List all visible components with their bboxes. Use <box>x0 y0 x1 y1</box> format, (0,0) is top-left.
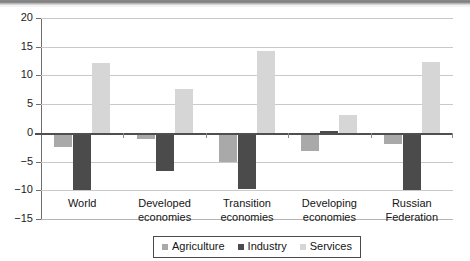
category-label-line: economies <box>123 210 205 224</box>
legend-label: Agriculture <box>172 241 225 252</box>
category-label: Developingeconomies <box>288 196 370 224</box>
y-axis-tick-label: 20 <box>0 12 33 23</box>
y-axis-tick-label: 0 <box>0 127 33 138</box>
category-label: World <box>41 196 123 210</box>
y-axis-tick <box>36 47 41 48</box>
y-axis-tick <box>36 75 41 76</box>
y-axis-tick <box>36 104 41 105</box>
category-label-line: Developing <box>288 196 370 210</box>
bar-agriculture <box>219 133 237 162</box>
bar-industry <box>238 133 256 189</box>
x-axis-minor-tick <box>288 133 289 138</box>
bar-group <box>137 18 193 219</box>
category-label-line: Transition <box>206 196 288 210</box>
y-axis-tick-label: −10 <box>0 184 33 195</box>
legend-label: Industry <box>248 241 287 252</box>
bar-services <box>257 51 275 133</box>
x-axis-minor-tick <box>371 133 372 138</box>
bar-group <box>219 18 275 219</box>
legend-swatch-icon <box>162 244 168 250</box>
scan-artifact-band-light <box>0 5 470 7</box>
chart-screenshot: 20151050−5−10−15 WorldDevelopedeconomies… <box>0 0 470 261</box>
category-label-line: World <box>41 196 123 210</box>
bar-industry <box>403 133 421 190</box>
y-axis-tick-label: −5 <box>0 156 33 167</box>
legend-item-services[interactable]: Services <box>300 241 352 252</box>
y-axis-tick <box>36 190 41 191</box>
legend-item-agriculture[interactable]: Agriculture <box>162 241 225 252</box>
category-label: Developedeconomies <box>123 196 205 224</box>
category-label: Transitioneconomies <box>206 196 288 224</box>
x-axis-minor-tick <box>123 133 124 138</box>
legend-swatch-icon <box>300 244 306 250</box>
category-label-line: economies <box>206 210 288 224</box>
legend-swatch-icon <box>238 244 244 250</box>
y-axis-tick-label: 15 <box>0 41 33 52</box>
bar-agriculture <box>301 133 319 151</box>
bar-agriculture <box>54 133 72 147</box>
legend-item-industry[interactable]: Industry <box>238 241 287 252</box>
bar-industry <box>156 133 174 171</box>
bar-industry <box>73 133 91 190</box>
bar-group <box>301 18 357 219</box>
category-label-line: Federation <box>371 210 453 224</box>
category-label: RussianFederation <box>371 196 453 224</box>
x-axis-end-tick <box>452 133 453 138</box>
y-axis-tick <box>36 162 41 163</box>
bar-services <box>175 89 193 133</box>
bar-group <box>384 18 440 219</box>
bar-services <box>92 63 110 133</box>
category-label-line: Developed <box>123 196 205 210</box>
legend-label: Services <box>310 241 352 252</box>
y-axis-tick-label: −15 <box>0 213 33 224</box>
bar-services <box>339 115 357 133</box>
y-axis-tick-label: 10 <box>0 69 33 80</box>
category-label-line: economies <box>288 210 370 224</box>
chart-legend: AgricultureIndustryServices <box>153 236 361 258</box>
zero-line <box>41 133 453 135</box>
category-label-line: Russian <box>371 196 453 210</box>
x-axis-category-labels: WorldDevelopedeconomiesTransitioneconomi… <box>41 196 453 230</box>
y-axis-line <box>41 18 42 219</box>
x-axis-minor-tick <box>206 133 207 138</box>
bar-services <box>422 62 440 133</box>
bar-group <box>54 18 110 219</box>
y-axis-tick <box>36 18 41 19</box>
plot-area <box>41 18 453 219</box>
y-axis-tick-label: 5 <box>0 98 33 109</box>
